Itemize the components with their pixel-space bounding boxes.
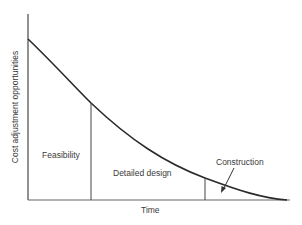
chart-canvas (0, 0, 302, 225)
y-axis-label: Cost adjustment opportunities (10, 51, 20, 163)
phase-label-feasibility: Feasibility (42, 150, 80, 160)
arrow-head (221, 186, 226, 193)
phase-label-construction: Construction (216, 157, 264, 167)
x-axis-label: Time (141, 205, 160, 215)
phase-label-detailed-design: Detailed design (113, 168, 172, 178)
